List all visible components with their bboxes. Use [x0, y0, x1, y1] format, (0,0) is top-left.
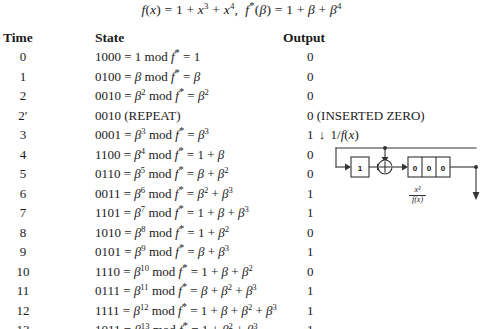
cell-output: 0 [307, 69, 314, 85]
table-row: 20010 = β2 mod f* = β20 [0, 88, 483, 108]
cell-state: 1010 = β8 mod f* = 1 + β2 [95, 225, 229, 241]
cell-output: 1 ↓ 1/f(x) [307, 127, 359, 143]
transfer-function-label: x³ f(x) [409, 186, 426, 205]
lfsr-cell-value-0: 1 [358, 164, 363, 173]
cell-time: 6 [0, 186, 46, 202]
lfsr-cell-value-2: 0 [427, 164, 432, 173]
column-header-time: Time [3, 30, 33, 46]
table-row: 101110 = β10 mod f* = 1 + β + β20 [0, 264, 483, 284]
cell-time: 11 [0, 283, 46, 299]
cell-time: 10 [0, 264, 46, 280]
arrowhead-output-down [473, 192, 480, 200]
transfer-function-numerator: x³ [409, 186, 426, 194]
cell-time: 2 [0, 88, 46, 104]
column-header-output: Output [283, 30, 325, 46]
cell-output: 0 [307, 166, 314, 182]
column-header-state: State [95, 30, 124, 46]
cell-output: 1 [307, 205, 314, 221]
arrowhead-into-register [402, 164, 408, 171]
cell-state: 1101 = β7 mod f* = 1 + β + β3 [95, 205, 249, 221]
polynomial-fstar: f*(β) = 1 + β + β4 [245, 2, 341, 17]
cell-state: 0010 = β2 mod f* = β2 [95, 88, 209, 104]
cell-output: 1 [307, 303, 314, 319]
page-title: f(x) = 1 + x3 + x4, f*(β) = 1 + β + β4 [0, 2, 483, 18]
tap-junction-xor [383, 146, 387, 150]
polynomial-fx: f(x) = 1 + x3 + x4, [141, 2, 238, 17]
table-row: 01000 = 1 mod f* = 10 [0, 49, 483, 69]
cell-state: 1100 = β4 mod f* = 1 + β [95, 147, 224, 163]
cell-time: 7 [0, 205, 46, 221]
cell-time: 2′ [0, 108, 46, 124]
cell-state: 1110 = β10 mod f* = 1 + β + β2 [95, 264, 253, 280]
cell-time: 5 [0, 166, 46, 182]
cell-state: 1111 = β12 mod f* = 1 + β + β2 + β3 [95, 303, 277, 319]
cell-output: 0 [307, 88, 314, 104]
cell-output: 0 [307, 49, 314, 65]
lfsr-diagram: 1 0 0 0 x³ f(x) [331, 143, 481, 213]
cell-state: 0101 = β9 mod f* = β + β3 [95, 244, 229, 260]
cell-time: 13 [0, 322, 46, 329]
cell-output: 0 [307, 147, 314, 163]
cell-state: 1011 = β13 mod f* = 1 + β2 + β3 [95, 322, 257, 329]
cell-state: 1000 = 1 mod f* = 1 [95, 49, 200, 65]
cell-time: 3 [0, 127, 46, 143]
cell-output: 0 [307, 225, 314, 241]
cell-state: 0100 = β mod f* = β [95, 69, 200, 85]
lfsr-schematic: 1 0 0 0 [331, 143, 481, 213]
cell-state: 0010 (REPEAT) [95, 108, 181, 124]
cell-state: 0011 = β6 mod f* = β2 + β3 [95, 186, 233, 202]
figure-page: f(x) = 1 + x3 + x4, f*(β) = 1 + β + β4 T… [0, 0, 483, 329]
cell-time: 8 [0, 225, 46, 241]
cell-state: 0110 = β5 mod f* = β + β2 [95, 166, 229, 182]
cell-output: 1 [307, 283, 314, 299]
arrowhead-into-cell1 [345, 164, 351, 171]
table-row: 10100 = β mod f* = β0 [0, 69, 483, 89]
cell-output: 1 [307, 186, 314, 202]
cell-time: 1 [0, 69, 46, 85]
lfsr-cell-value-1: 0 [413, 164, 418, 173]
cell-output: 0 [307, 264, 314, 280]
lfsr-cell-value-3: 0 [441, 164, 446, 173]
table-row: 121111 = β12 mod f* = 1 + β + β2 + β31 [0, 303, 483, 323]
table-row: 2′0010 (REPEAT)0 (INSERTED ZERO) [0, 108, 483, 128]
table-row: 90101 = β9 mod f* = β + β31 [0, 244, 483, 264]
table-row: 81010 = β8 mod f* = 1 + β20 [0, 225, 483, 245]
cell-output: 1 [307, 244, 314, 260]
transfer-function-denominator: f(x) [409, 196, 426, 204]
cell-state: 0111 = β11 mod f* = β + β2 + β3 [95, 283, 257, 299]
cell-time: 0 [0, 49, 46, 65]
table-row: 131011 = β13 mod f* = 1 + β2 + β31 [0, 322, 483, 329]
cell-time: 12 [0, 303, 46, 319]
cell-output: 1 [307, 322, 314, 329]
cell-time: 9 [0, 244, 46, 260]
table-row: 110111 = β11 mod f* = β + β2 + β31 [0, 283, 483, 303]
cell-time: 4 [0, 147, 46, 163]
cell-output: 0 (INSERTED ZERO) [307, 108, 425, 124]
cell-state: 0001 = β3 mod f* = β3 [95, 127, 209, 143]
tap-junction-output [474, 165, 478, 169]
